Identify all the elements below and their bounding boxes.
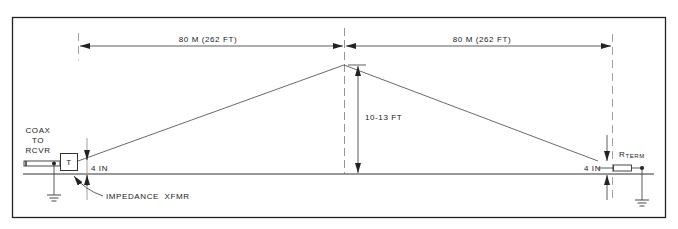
mast-height-label: 10-13 FT xyxy=(365,113,402,122)
coax-label-line3: RCVR xyxy=(25,146,50,155)
right-span-label: 80 M (262 FT) xyxy=(453,35,511,44)
transformer-symbol: T xyxy=(66,158,72,167)
termination-resistor xyxy=(614,165,632,171)
left-span-label: 80 M (262 FT) xyxy=(179,35,237,44)
right-ground-icon xyxy=(635,200,649,206)
coax-label-line1: COAX xyxy=(25,126,50,135)
left-ground-icon xyxy=(47,195,61,201)
transformer-callout-arrow xyxy=(74,176,103,196)
antenna-diagram: 80 M (262 FT) 80 M (262 FT) 10-13 FT COA… xyxy=(0,0,678,229)
resistor-label: RTERM xyxy=(619,150,645,159)
diagram-frame xyxy=(13,18,666,218)
antenna-wire xyxy=(78,65,598,161)
right-feed-height-label: 4 IN xyxy=(584,164,601,173)
left-feed-height-label: 4 IN xyxy=(91,164,108,173)
transformer-callout-label: IMPEDANCE XFMR xyxy=(106,192,190,201)
coax-label-line2: TO xyxy=(32,136,44,145)
